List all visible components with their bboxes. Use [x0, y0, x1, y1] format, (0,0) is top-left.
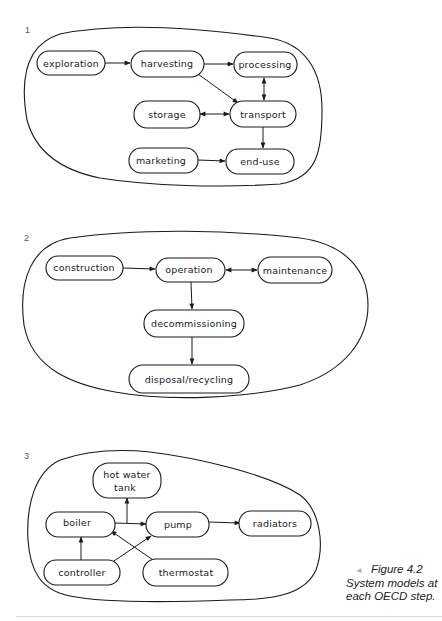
panel-number: 3	[24, 451, 29, 461]
node-label: boiler	[63, 517, 91, 528]
node-label: pump	[164, 519, 192, 530]
caption-marker-icon: ◄	[355, 566, 363, 575]
node-label: construction	[53, 262, 114, 273]
node-construction: construction	[46, 256, 123, 280]
node-label: thermostat	[159, 567, 214, 578]
node-exploration: exploration	[37, 51, 105, 75]
node-radiators: radiators	[239, 511, 311, 536]
node-decommissioning: decommissioning	[144, 310, 244, 337]
node-maintenance: maintenance	[258, 257, 332, 283]
page-separator	[16, 616, 442, 617]
node-controller: controller	[44, 560, 120, 585]
node-hot-water-tank: hot water tank	[93, 463, 161, 498]
panel-number: 1	[25, 25, 30, 35]
node-label: end-use	[240, 156, 280, 167]
node-thermostat: thermostat	[143, 559, 228, 586]
node-label: transport	[240, 109, 286, 120]
node-disposal-recycling: disposal/recycling	[129, 365, 249, 393]
panel-1: 1 exploration harvesting processing s	[24, 25, 322, 186]
system-models-figure: 1 exploration harvesting processing s	[0, 0, 442, 621]
node-label: maintenance	[263, 265, 327, 276]
caption-title-line: ◄Figure 4.2	[346, 563, 442, 577]
caption-line-3: each OECD step.	[346, 590, 442, 603]
node-label: hot water	[103, 469, 150, 480]
node-label: radiators	[253, 518, 297, 529]
node-transport: transport	[230, 101, 296, 127]
node-label: processing	[238, 59, 291, 70]
panel-number: 2	[24, 233, 29, 243]
node-storage: storage	[134, 101, 200, 128]
node-label-line2: tank	[114, 482, 136, 493]
node-label: harvesting	[141, 58, 194, 69]
node-pump: pump	[146, 512, 209, 537]
node-label: disposal/recycling	[145, 374, 234, 385]
panel-3: 3 hot water tank boiler pump radiators	[24, 450, 320, 601]
node-end-use: end-use	[226, 149, 294, 174]
node-label: decommissioning	[151, 318, 237, 329]
node-marketing: marketing	[129, 148, 198, 173]
node-label: marketing	[136, 155, 186, 166]
node-label: exploration	[43, 58, 99, 69]
node-boiler: boiler	[46, 512, 115, 537]
caption-title: Figure 4.2	[371, 563, 423, 575]
figure-caption: ◄Figure 4.2 System models at each OECD s…	[346, 563, 442, 603]
panel-2: 2 construction operation maintenance dec…	[23, 231, 368, 397]
node-label: controller	[58, 567, 105, 578]
node-operation: operation	[156, 258, 225, 282]
node-harvesting: harvesting	[131, 51, 204, 77]
node-label: operation	[165, 264, 212, 275]
node-processing: processing	[234, 52, 297, 77]
node-label: storage	[148, 109, 186, 120]
caption-line-2: System models at	[346, 577, 442, 590]
